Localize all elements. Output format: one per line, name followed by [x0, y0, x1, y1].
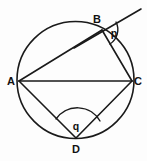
- vertex-label-a: A: [7, 75, 15, 87]
- vertex-label-d: D: [72, 143, 80, 155]
- chord-ab: [19, 30, 102, 81]
- vertex-label-c: C: [134, 75, 142, 87]
- tangent-line-at-b: [74, 9, 141, 48]
- vertex-label-b: B: [93, 13, 101, 25]
- angle-label-q: q: [73, 120, 79, 132]
- chord-cd: [76, 81, 132, 138]
- angle-label-p: p: [111, 27, 117, 39]
- geometry-diagram: A B C D p q: [0, 0, 147, 161]
- circle-geometry-figure: A B C D p q: [0, 0, 147, 161]
